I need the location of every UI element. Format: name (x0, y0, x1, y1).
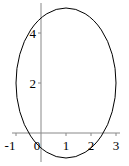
x-tick-label: -1 (5, 138, 16, 153)
y-tick-label: 4 (30, 26, 37, 41)
x-tick-label: 2 (88, 138, 95, 153)
x-tick-label: 1 (63, 138, 70, 153)
plot-canvas: -1 0 1 2 3 2 4 (0, 0, 129, 166)
ellipse-plot: -1 0 1 2 3 2 4 (0, 0, 129, 166)
x-tick-label: 0 (34, 138, 41, 153)
x-tick-label: 3 (113, 138, 120, 153)
y-tick-label: 2 (30, 76, 37, 91)
